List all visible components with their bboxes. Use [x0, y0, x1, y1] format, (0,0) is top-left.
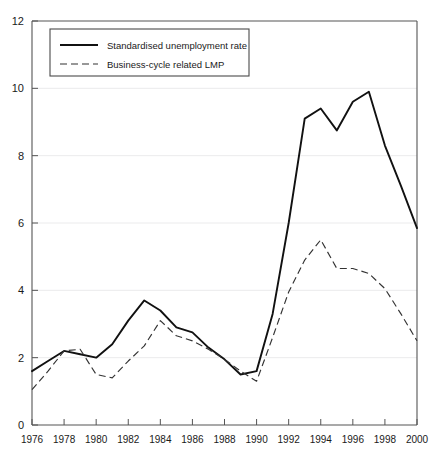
- x-tick-label-1978: 1978: [53, 434, 76, 445]
- x-tick-label-1994: 1994: [310, 434, 333, 445]
- x-tick-label-1980: 1980: [85, 434, 108, 445]
- x-tick-label-1986: 1986: [181, 434, 204, 445]
- y-tick-label-6: 6: [18, 217, 24, 229]
- legend-label-business-cycle-related-lmp: Business-cycle related LMP: [107, 59, 224, 70]
- line-chart-canvas: 121086420 197619781980198219841986198819…: [0, 0, 433, 472]
- chart-figure: 121086420 197619781980198219841986198819…: [0, 0, 433, 472]
- x-tick-label-1992: 1992: [278, 434, 301, 445]
- y-tick-label-8: 8: [18, 150, 24, 162]
- chart-legend: Standardised unemployment rate Business-…: [50, 29, 249, 76]
- y-tick-label-2: 2: [18, 352, 24, 364]
- x-tick-label-1996: 1996: [342, 434, 365, 445]
- page-footer-artifact: [8, 463, 11, 470]
- x-tick-label-1990: 1990: [245, 434, 268, 445]
- x-tick-label-2000: 2000: [406, 434, 429, 445]
- y-tick-label-10: 10: [12, 82, 24, 94]
- x-tick-label-1976: 1976: [21, 434, 44, 445]
- x-tick-label-1988: 1988: [213, 434, 236, 445]
- y-tick-label-4: 4: [18, 284, 24, 296]
- x-tick-label-1998: 1998: [374, 434, 397, 445]
- y-tick-label-0: 0: [18, 419, 24, 431]
- legend-label-standardised-unemployment-rate: Standardised unemployment rate: [107, 40, 247, 51]
- x-tick-label-1982: 1982: [117, 434, 140, 445]
- y-tick-label-12: 12: [12, 15, 24, 27]
- x-tick-label-1984: 1984: [149, 434, 172, 445]
